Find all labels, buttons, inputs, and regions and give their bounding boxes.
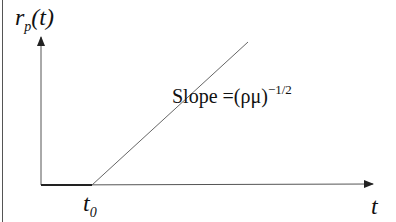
x-axis-label: t bbox=[371, 193, 378, 220]
diagram-canvas bbox=[0, 0, 396, 222]
y-axis-label: rp(t) bbox=[15, 4, 54, 35]
slope-line bbox=[92, 42, 248, 185]
origin-marker-label: t0 bbox=[83, 190, 97, 221]
slope-label: Slope =(ρμ)−1/2 bbox=[172, 82, 292, 108]
